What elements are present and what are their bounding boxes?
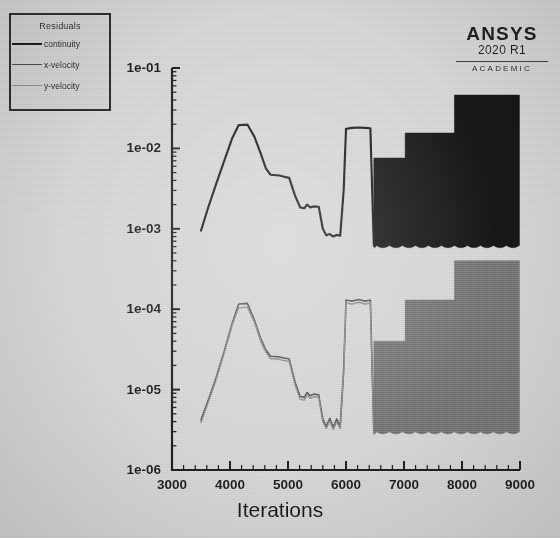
legend-line-swatch [12, 64, 42, 65]
legend-line-swatch [12, 85, 42, 86]
x-tick-label: 6000 [316, 477, 376, 492]
oscillation-band-continuity [374, 95, 520, 248]
legend-title: Residuals [11, 21, 109, 31]
legend-item-y-velocity[interactable]: y-velocity [11, 77, 109, 94]
y-tick-label: 1e-02 [126, 140, 161, 155]
legend-items: continuityx-velocityy-velocity [11, 35, 109, 94]
oscillation-bands [374, 95, 520, 434]
y-tick-label: 1e-06 [126, 462, 161, 477]
legend-item-continuity[interactable]: continuity [11, 35, 109, 52]
logo-divider [456, 61, 548, 62]
residuals-plot-window: 1e-011e-021e-031e-041e-051e-06 300040005… [0, 0, 560, 538]
oscillation-band-x-velocity [374, 261, 520, 434]
series-lines [201, 125, 374, 435]
series-line-x-velocity [201, 300, 374, 432]
legend-item-label: x-velocity [44, 60, 79, 70]
legend-line-swatch [12, 43, 42, 45]
legend-item-x-velocity[interactable]: x-velocity [11, 56, 109, 73]
x-tick-label: 3000 [142, 477, 202, 492]
y-tick-label: 1e-04 [126, 301, 161, 316]
y-tick-label: 1e-03 [126, 221, 161, 236]
x-tick-label: 9000 [490, 477, 550, 492]
y-tick-label: 1e-01 [126, 60, 161, 75]
x-tick-label: 4000 [200, 477, 260, 492]
legend-item-label: y-velocity [44, 81, 79, 91]
logo-version: 2020 R1 [454, 43, 550, 58]
legend-item-label: continuity [44, 39, 80, 49]
x-tick-label: 5000 [258, 477, 318, 492]
logo-edition: ACADEMIC [454, 64, 550, 74]
legend-panel[interactable]: Residuals continuityx-velocityy-velocity [9, 13, 111, 111]
series-line-y-velocity [201, 302, 374, 434]
x-tick-label: 8000 [432, 477, 492, 492]
ansys-logo: ANSYS 2020 R1 ACADEMIC [454, 24, 550, 74]
x-tick-label: 7000 [374, 477, 434, 492]
series-line-continuity [201, 125, 374, 246]
x-axis-title: Iterations [0, 498, 560, 522]
logo-vendor-name: ANSYS [454, 24, 550, 43]
y-tick-label: 1e-05 [126, 382, 161, 397]
